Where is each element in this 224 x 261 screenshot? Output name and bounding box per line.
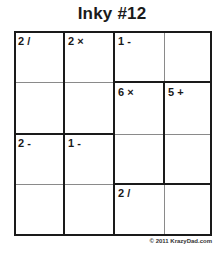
cage-clue: 2 -: [18, 138, 31, 149]
cage-clue: 5 +: [168, 87, 184, 98]
grid-cell[interactable]: [164, 134, 212, 184]
puzzle-grid: 2 / 2 × 1 - 6 × 5 + 2 - 1 - 2 /: [14, 31, 212, 236]
cage-border: [114, 183, 212, 185]
cage-clue: 2 ×: [68, 36, 84, 47]
thin-grid-line: [164, 184, 165, 236]
grid-cell[interactable]: [164, 184, 212, 236]
cage-border: [14, 133, 114, 135]
cage-clue: 1 -: [68, 138, 81, 149]
thin-grid-line: [64, 82, 114, 83]
grid-cell[interactable]: [164, 31, 212, 82]
thin-grid-line: [14, 82, 64, 83]
grid-cell[interactable]: [14, 82, 64, 134]
cage-clue: 2 /: [118, 188, 130, 199]
cage-clue: 1 -: [118, 36, 131, 47]
grid-cell[interactable]: [64, 82, 114, 134]
cage-clue: 6 ×: [118, 87, 134, 98]
thin-grid-line: [164, 31, 165, 82]
copyright-notice: © 2011 KrazyDad.com: [150, 238, 212, 244]
outer-border-right: [210, 31, 212, 236]
cage-border: [163, 82, 165, 184]
cage-clue: 2 /: [18, 36, 30, 47]
grid-cell[interactable]: [14, 184, 64, 236]
grid-cell[interactable]: [114, 134, 164, 184]
grid-cell[interactable]: [64, 184, 114, 236]
puzzle-title: Inky #12: [0, 4, 224, 24]
